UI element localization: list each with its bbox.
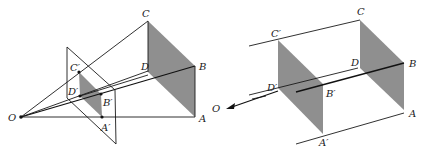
point-D-prime xyxy=(78,94,81,97)
label-C-prime: C′ xyxy=(70,62,81,73)
label-B-prime: B′ xyxy=(325,88,336,99)
line-C-C-prime xyxy=(249,20,360,46)
arrow-head-icon xyxy=(226,103,235,109)
label-D: D xyxy=(350,57,359,68)
point-A-prime xyxy=(100,115,103,118)
label-A: A xyxy=(198,113,206,124)
label-B-prime: B′ xyxy=(102,97,113,108)
label-C: C xyxy=(357,6,365,17)
label-B: B xyxy=(198,61,206,72)
label-A: A xyxy=(408,108,416,119)
label-A-prime: A′ xyxy=(100,122,111,133)
projection-diagram: O C D B A C′ D′ B′ A′ O C D B A C′ D′ B′… xyxy=(0,0,421,152)
label-O: O xyxy=(8,112,16,123)
ray-O-C xyxy=(21,21,148,117)
label-B: B xyxy=(408,58,416,69)
label-C: C xyxy=(142,8,150,19)
object-face-shade xyxy=(148,21,195,117)
label-C-prime: C′ xyxy=(271,28,282,39)
right-panel-parallel-projection: O C D B A C′ D′ B′ A′ xyxy=(212,6,416,148)
label-O: O xyxy=(212,103,220,114)
label-A-prime: A′ xyxy=(318,137,329,148)
label-D-prime: D′ xyxy=(266,82,278,93)
point-B-prime xyxy=(99,92,102,95)
label-D-prime: D′ xyxy=(67,86,79,97)
label-D: D xyxy=(140,61,149,72)
left-panel-central-projection: O C D B A C′ D′ B′ A′ xyxy=(8,8,206,144)
point-O xyxy=(19,115,23,119)
